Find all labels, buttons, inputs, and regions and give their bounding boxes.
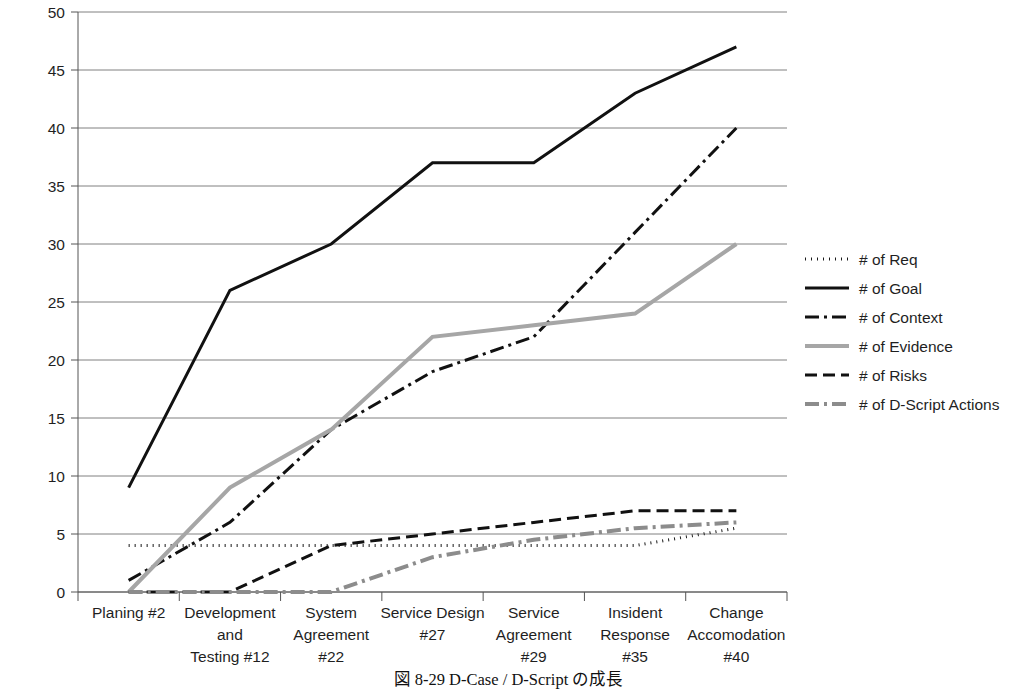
y-tick-label: 45: [48, 62, 65, 79]
x-category-label: Development: [184, 604, 276, 621]
series-lines: [129, 47, 737, 592]
x-category-label: Service Design: [380, 604, 484, 621]
series-line-0: [129, 528, 737, 545]
x-category-label: Service: [508, 604, 560, 621]
legend-label-4: # of Risks: [859, 367, 927, 384]
y-tick-label: 25: [48, 294, 65, 311]
legend: # of Req# of Goal# of Context# of Eviden…: [805, 251, 1000, 413]
legend-label-2: # of Context: [859, 309, 943, 326]
y-tick-label: 30: [48, 236, 66, 253]
y-tick-label: 40: [48, 120, 66, 137]
legend-label-1: # of Goal: [859, 280, 922, 297]
legend-label-3: # of Evidence: [859, 338, 953, 355]
series-line-1: [129, 47, 737, 488]
x-category-label: and: [217, 626, 243, 643]
gridlines: [71, 12, 787, 592]
y-tick-label: 15: [48, 410, 65, 427]
x-category-label: #22: [318, 648, 344, 665]
x-category-label: System: [305, 604, 357, 621]
y-axis-tick-labels: 05101520253035404550: [48, 4, 66, 601]
y-tick-label: 5: [56, 526, 65, 543]
legend-label-5: # of D-Script Actions: [859, 396, 1000, 413]
x-category-label: Change: [709, 604, 763, 621]
y-tick-label: 35: [48, 178, 65, 195]
x-category-label: #35: [622, 648, 648, 665]
axes: [78, 12, 787, 601]
x-category-label: #40: [723, 648, 749, 665]
y-tick-label: 0: [56, 584, 65, 601]
x-category-label: Testing #12: [190, 648, 269, 665]
x-category-label: Agreement: [293, 626, 370, 643]
x-category-label: Insident: [608, 604, 663, 621]
figure-caption: 図 8-29 D-Case / D-Script の成長: [0, 666, 1017, 689]
x-category-label: Agreement: [496, 626, 573, 643]
x-category-label: Accomodation: [687, 626, 785, 643]
legend-label-0: # of Req: [859, 251, 918, 268]
y-tick-label: 10: [48, 468, 66, 485]
x-axis-category-labels: Planing #2DevelopmentandTesting #12Syste…: [92, 604, 785, 665]
x-category-label: #27: [420, 626, 446, 643]
line-chart: 05101520253035404550 Planing #2Developme…: [0, 0, 1017, 689]
y-tick-label: 20: [48, 352, 66, 369]
series-line-2: [129, 128, 737, 580]
x-category-label: Response: [600, 626, 670, 643]
y-tick-label: 50: [48, 4, 66, 21]
series-line-4: [129, 511, 737, 592]
figure-container: 05101520253035404550 Planing #2Developme…: [0, 0, 1017, 689]
x-category-label: #29: [521, 648, 547, 665]
x-category-label: Planing #2: [92, 604, 165, 621]
